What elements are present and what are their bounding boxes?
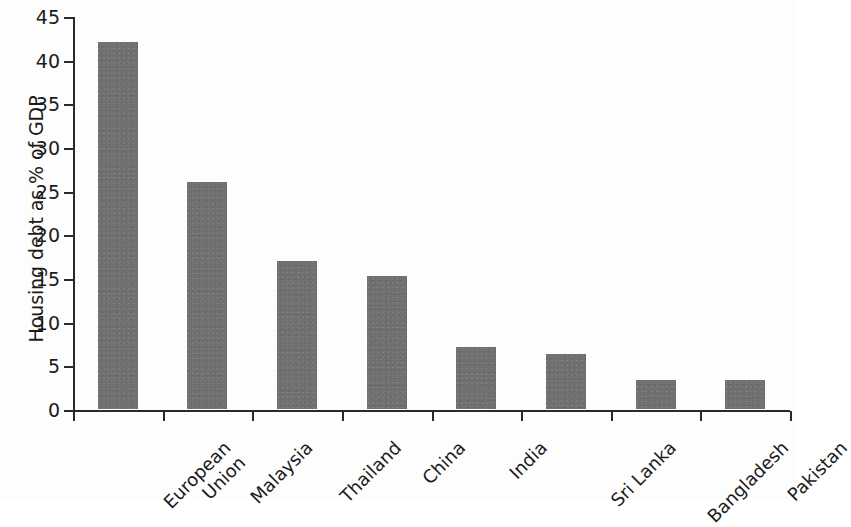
- x-axis-label-line: Sri Lanka: [606, 437, 680, 511]
- x-axis-label: Malaysia: [246, 437, 317, 508]
- x-tick-mark: [521, 411, 523, 421]
- y-tick-mark: [64, 192, 73, 194]
- bar: [367, 276, 407, 409]
- y-tick-label: 10: [36, 312, 60, 334]
- x-tick-mark: [611, 411, 613, 421]
- x-tick-mark: [163, 411, 165, 421]
- x-axis-label-line: Bangladesh: [703, 437, 793, 527]
- bar: [98, 42, 138, 409]
- x-axis-label-line: Malaysia: [246, 437, 317, 508]
- y-tick-mark: [64, 410, 73, 412]
- x-axis-label: Bangladesh: [703, 437, 793, 527]
- bar: [456, 347, 496, 409]
- y-tick-label: 35: [36, 93, 60, 115]
- y-tick-label: 45: [36, 6, 60, 28]
- x-axis-label-line: Thailand: [336, 437, 406, 507]
- x-tick-mark: [252, 411, 254, 421]
- bar: [277, 261, 317, 409]
- bar: [725, 380, 765, 409]
- y-tick-label: 40: [36, 50, 60, 72]
- y-tick-mark: [64, 279, 73, 281]
- bar: [546, 354, 586, 409]
- y-tick-mark: [64, 104, 73, 106]
- y-tick-mark: [64, 323, 73, 325]
- y-tick-label: 30: [36, 137, 60, 159]
- x-axis-label: China: [418, 437, 469, 488]
- x-axis-label-line: China: [418, 437, 469, 488]
- x-axis-label-line: Pakistan: [783, 437, 851, 505]
- x-tick-mark: [73, 411, 75, 421]
- x-axis-label: EuropeanUnion: [159, 437, 250, 527]
- x-axis-label: Pakistan: [783, 437, 851, 505]
- x-tick-mark: [790, 411, 792, 421]
- y-axis-line: [73, 17, 75, 412]
- x-tick-mark: [342, 411, 344, 421]
- y-tick-mark: [64, 235, 73, 237]
- y-tick-label: 25: [36, 181, 60, 203]
- y-tick-label: 20: [36, 224, 60, 246]
- y-tick-mark: [64, 366, 73, 368]
- x-axis-label-line: India: [505, 437, 551, 483]
- x-axis-label: Thailand: [336, 437, 406, 507]
- y-tick-label: 15: [36, 268, 60, 290]
- x-axis-label: Sri Lanka: [606, 437, 680, 511]
- x-axis-label: India: [505, 437, 551, 483]
- y-tick-mark: [64, 61, 73, 63]
- y-tick-mark: [64, 148, 73, 150]
- y-tick-label: 5: [48, 355, 60, 377]
- bar: [187, 182, 227, 409]
- x-tick-mark: [700, 411, 702, 421]
- y-tick-mark: [64, 17, 73, 19]
- y-tick-label: 0: [48, 399, 60, 421]
- x-tick-mark: [432, 411, 434, 421]
- plot-area: 051015202530354045 EuropeanUnionMalaysia…: [73, 17, 790, 411]
- bar: [636, 380, 676, 409]
